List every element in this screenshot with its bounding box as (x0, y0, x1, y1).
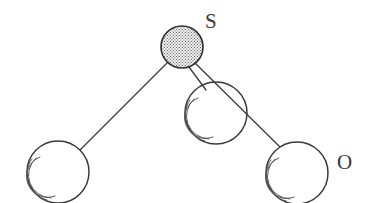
bond-s-o-left (80, 63, 167, 150)
sulfur-atom (161, 26, 203, 68)
atom-label-oxygen: O (337, 152, 352, 173)
molecular-structure-figure: S O (0, 0, 375, 203)
atom-label-sulfur: S (205, 11, 217, 32)
oxygen-atom-center (185, 82, 247, 144)
sulfur-atom-sphere (161, 26, 203, 68)
oxygen-atom-left (27, 141, 89, 203)
oxygen-atom-right (266, 142, 328, 203)
molecule-diagram-canvas (0, 0, 375, 203)
